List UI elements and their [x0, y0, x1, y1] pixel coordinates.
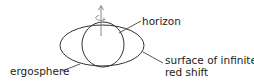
kerr-black-hole-diagram: horizon surface of infinite red shift er…	[0, 0, 254, 81]
infinite-redshift-surface-ellipse	[60, 25, 144, 66]
ergosphere-label: ergosphere	[10, 65, 69, 77]
horizon-circle	[82, 22, 124, 67]
rotation-direction-icon	[96, 16, 105, 21]
surface-of-infinite-redshift-label-line2: red shift	[165, 66, 208, 78]
horizon-label: horizon	[142, 15, 181, 27]
redshift-leader-line	[143, 52, 163, 63]
surface-of-infinite-redshift-label-line1: surface of infinite	[165, 54, 254, 66]
